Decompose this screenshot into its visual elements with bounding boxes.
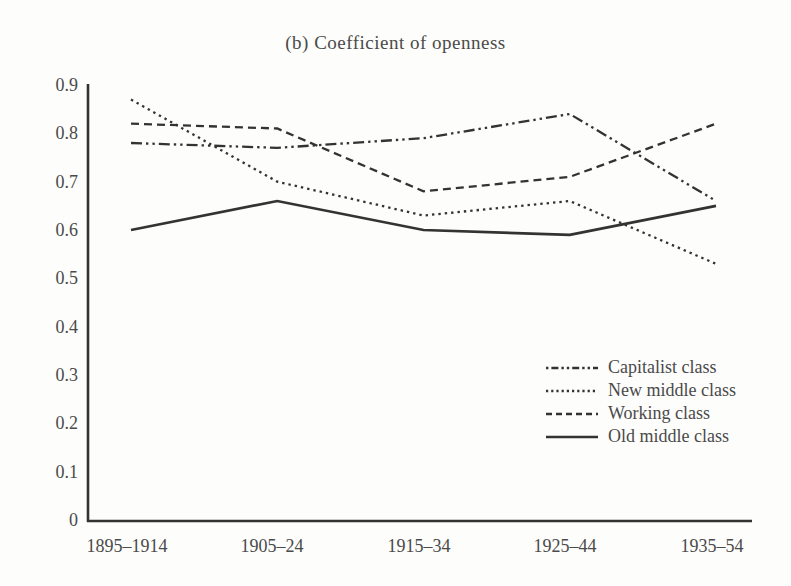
y-tick-label: 0.2 — [28, 413, 78, 434]
chart-canvas — [0, 0, 791, 586]
y-tick-label: 0 — [28, 510, 78, 531]
series-line-dotted — [131, 100, 716, 264]
dash-dot-dot-line-icon — [546, 364, 598, 372]
y-tick-label: 0.7 — [28, 172, 78, 193]
series-line-solid — [131, 201, 716, 235]
y-tick-label: 0.5 — [28, 268, 78, 289]
dotted-line-icon — [546, 387, 598, 395]
legend-item: Old middle class — [546, 425, 736, 448]
x-tick-label: 1895–1914 — [87, 536, 168, 557]
legend-label: Old middle class — [608, 426, 729, 447]
y-tick-label: 0.1 — [28, 462, 78, 483]
legend-label: New middle class — [608, 380, 736, 401]
x-tick-label: 1915–34 — [388, 536, 451, 557]
chart-legend: Capitalist class New middle class Workin… — [546, 356, 736, 448]
legend-label: Capitalist class — [608, 357, 716, 378]
x-tick-label: 1925–44 — [534, 536, 597, 557]
legend-item: Working class — [546, 402, 736, 425]
x-tick-label: 1935–54 — [681, 536, 744, 557]
series-line-dash-dot-dot — [131, 114, 716, 201]
dashed-line-icon — [546, 410, 598, 418]
y-tick-label: 0.4 — [28, 317, 78, 338]
legend-item: New middle class — [546, 379, 736, 402]
series-line-dashed — [131, 124, 716, 192]
figure-page: (b) Coefficient of openness 0.9 0.8 0.7 … — [0, 0, 791, 586]
y-tick-label: 0.3 — [28, 365, 78, 386]
solid-line-icon — [546, 433, 598, 441]
y-tick-label: 0.8 — [28, 123, 78, 144]
legend-label: Working class — [608, 403, 710, 424]
y-tick-label: 0.9 — [28, 75, 78, 96]
x-tick-label: 1905–24 — [241, 536, 304, 557]
legend-item: Capitalist class — [546, 356, 736, 379]
y-tick-label: 0.6 — [28, 220, 78, 241]
